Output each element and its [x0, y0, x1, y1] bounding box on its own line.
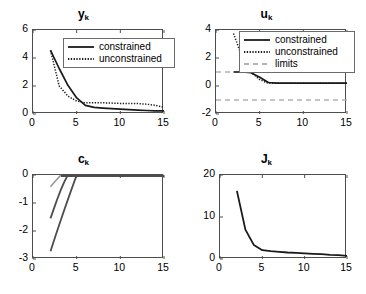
- panel-ck-title: ck: [0, 153, 175, 167]
- figure-canvas: yk: [0, 0, 366, 294]
- panel-ck-title-sub: k: [85, 158, 89, 167]
- panel-jk-axes: [219, 174, 346, 258]
- panel-uk-legend-label-constrained: constrained: [275, 35, 327, 45]
- panel-yk-legend-label-constrained: constrained: [99, 42, 151, 52]
- panel-ck-plot-area: [33, 175, 164, 259]
- panel-jk-plot-area: [220, 175, 347, 259]
- panel-yk-title-sub: k: [85, 13, 89, 22]
- panel-jk-ytick-2: 20: [189, 168, 215, 179]
- panel-yk-ytick-2: 4: [8, 51, 28, 62]
- panel-jk-ytick-1: 10: [189, 210, 215, 221]
- panel-uk-legend-item-unconstrained: unconstrained: [243, 46, 351, 58]
- panel-ck-ytick-1: -2: [4, 224, 28, 235]
- panel-jk-title-sub: k: [268, 158, 272, 167]
- panel-uk-title-main: u: [261, 7, 268, 21]
- panel-uk-xtick-1: 5: [249, 117, 269, 128]
- panel-ck-xtick-0: 0: [22, 262, 42, 273]
- panel-yk-ytick-1: 2: [8, 79, 28, 90]
- panel-yk-legend-label-unconstrained: unconstrained: [99, 54, 162, 64]
- panel-ck-series-constraint-3: [51, 175, 77, 251]
- panel-uk: uk: [183, 0, 366, 147]
- panel-ck-ytick-0: -3: [4, 252, 28, 263]
- panel-jk: Jk 20: [183, 147, 366, 294]
- panel-yk-xtick-3: 15: [153, 117, 173, 128]
- panel-yk-title-main: y: [78, 7, 85, 21]
- panel-jk-xtick-3: 15: [336, 262, 356, 273]
- panel-jk-tickmarks: [220, 175, 347, 259]
- panel-ck-series-constraint-2: [51, 175, 68, 218]
- panel-uk-title: uk: [175, 8, 358, 22]
- panel-yk-legend-item-constrained: constrained: [67, 41, 171, 53]
- legend-swatch-dotted-icon: [243, 47, 271, 57]
- panel-jk-xtick-2: 10: [294, 262, 314, 273]
- panel-jk-series-cost: [237, 191, 347, 256]
- panel-uk-legend-label-limits: limits: [275, 59, 298, 69]
- legend-swatch-dotted-icon: [67, 54, 95, 64]
- panel-uk-legend-item-limits: limits: [243, 58, 351, 70]
- panel-ck: ck: [0, 147, 183, 294]
- panel-yk-xtick-1: 5: [66, 117, 86, 128]
- panel-uk-ytick-3: 4: [191, 23, 211, 34]
- panel-jk-xtick-1: 5: [251, 262, 271, 273]
- panel-ck-ytick-2: -1: [4, 196, 28, 207]
- legend-swatch-solid-icon: [243, 35, 271, 45]
- panel-yk-legend: constrained unconstrained: [63, 38, 175, 68]
- panel-ck-xtick-1: 5: [66, 262, 86, 273]
- panel-uk-xtick-0: 0: [205, 117, 225, 128]
- panel-yk-ytick-0: 0: [8, 107, 28, 118]
- panel-yk-ytick-3: 6: [8, 23, 28, 34]
- panel-jk-xtick-0: 0: [209, 262, 229, 273]
- panel-uk-legend: constrained unconstrained limits: [239, 31, 355, 73]
- panel-uk-xtick-2: 10: [292, 117, 312, 128]
- legend-swatch-dashed-icon: [243, 59, 271, 69]
- panel-uk-xtick-3: 15: [336, 117, 356, 128]
- panel-uk-legend-item-constrained: constrained: [243, 34, 351, 46]
- panel-ck-series-constraint-1: [51, 175, 61, 187]
- panel-jk-title: Jk: [175, 153, 358, 167]
- panel-yk-xtick-0: 0: [22, 117, 42, 128]
- panel-uk-ytick-2: 2: [191, 51, 211, 62]
- panel-uk-ytick-1: 0: [191, 79, 211, 90]
- panel-ck-xtick-2: 10: [109, 262, 129, 273]
- panel-jk-ytick-0: 0: [189, 252, 215, 263]
- panel-jk-title-main: J: [261, 152, 268, 166]
- panel-uk-legend-label-unconstrained: unconstrained: [275, 47, 338, 57]
- panel-uk-series-constrained: [234, 72, 348, 83]
- panel-ck-axes: [32, 174, 163, 258]
- panel-yk-legend-item-unconstrained: unconstrained: [67, 53, 171, 65]
- panel-uk-ytick-0: -2: [187, 107, 211, 118]
- panel-ck-xtick-3: 15: [153, 262, 173, 273]
- panel-yk-xtick-2: 10: [109, 117, 129, 128]
- legend-swatch-solid-icon: [67, 42, 95, 52]
- panel-uk-title-sub: k: [268, 13, 272, 22]
- panel-yk: yk: [0, 0, 183, 147]
- panel-yk-title: yk: [0, 8, 175, 22]
- panel-ck-title-main: c: [78, 152, 85, 166]
- panel-ck-ytick-3: 0: [8, 168, 28, 179]
